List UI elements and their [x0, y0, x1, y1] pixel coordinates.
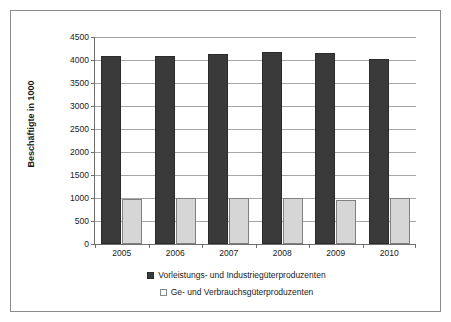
legend-item-label: Vorleistungs- und Industriegüterproduzen…	[158, 270, 325, 280]
bar-series-container	[95, 37, 416, 244]
y-axis-tick-label: 2500	[53, 124, 89, 134]
bar-series1-2007	[208, 54, 228, 244]
y-axis-tick-label: 0	[53, 239, 89, 249]
y-axis-tick-label: 3500	[53, 78, 89, 88]
light-square-icon	[160, 289, 167, 296]
bar-series2-2006	[176, 198, 196, 244]
x-axis-tick-labels: 200520062007200820092010	[95, 248, 416, 262]
plot-area	[95, 37, 416, 244]
chart-legend: Vorleistungs- und Industriegüterproduzen…	[11, 270, 451, 304]
bar-series2-2008	[283, 198, 303, 244]
bar-group	[309, 37, 363, 244]
bar-series1-2005	[101, 56, 121, 244]
bar-series1-2009	[315, 53, 335, 244]
y-axis-tick-label: 2000	[53, 147, 89, 157]
y-axis-tick-label: 4000	[53, 55, 89, 65]
y-axis-title: Beschäftigte in 1000	[26, 64, 36, 184]
bar-series1-2010	[369, 59, 389, 244]
bar-group	[363, 37, 417, 244]
chart-frame: Beschäftigte in 1000 0500100015002000250…	[10, 10, 441, 312]
x-axis-tick-label: 2008	[273, 248, 292, 258]
y-axis-tick-label: 1500	[53, 170, 89, 180]
bar-group	[95, 37, 149, 244]
x-axis-tick-label: 2010	[380, 248, 399, 258]
y-axis-tick-labels: 050010001500200025003000350040004500	[51, 37, 89, 244]
bar-group	[256, 37, 310, 244]
bar-group	[202, 37, 256, 244]
legend-item: Ge- und Verbrauchsgüterproduzenten	[11, 287, 451, 297]
chart-figure: Beschäftigte in 1000 0500100015002000250…	[0, 0, 451, 322]
bar-series2-2007	[229, 198, 249, 244]
bar-series2-2009	[336, 200, 356, 244]
legend-item-label: Ge- und Verbrauchsgüterproduzenten	[171, 287, 314, 297]
legend-item: Vorleistungs- und Industriegüterproduzen…	[11, 270, 451, 280]
bar-series2-2005	[122, 199, 142, 244]
x-axis-tick-label: 2005	[112, 248, 131, 258]
y-axis-tick-label: 3000	[53, 101, 89, 111]
y-axis-tick-label: 1000	[53, 193, 89, 203]
x-axis-tick-label: 2007	[219, 248, 238, 258]
bar-series1-2008	[262, 52, 282, 244]
bar-series2-2010	[390, 198, 410, 244]
dark-square-icon	[147, 272, 154, 279]
bar-group	[149, 37, 203, 244]
x-axis-tick-label: 2006	[166, 248, 185, 258]
bar-series1-2006	[155, 56, 175, 244]
y-axis-tick-label: 500	[53, 216, 89, 226]
y-axis-tick-label: 4500	[53, 32, 89, 42]
x-axis-tick-label: 2009	[326, 248, 345, 258]
